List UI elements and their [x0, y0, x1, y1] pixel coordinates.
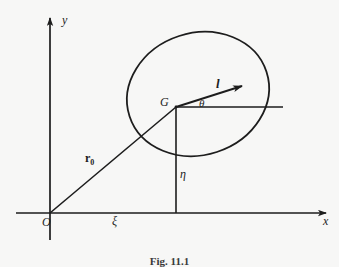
- y-axis-label: y: [62, 14, 67, 26]
- r0-subscript: 0: [90, 158, 94, 167]
- centroid-label: G: [160, 96, 169, 108]
- position-vector-r0: [50, 107, 176, 213]
- body-line-label: l: [216, 77, 220, 90]
- figure-caption: Fig. 11.1: [0, 255, 339, 267]
- body-line-l-vector: [176, 86, 242, 107]
- rigid-body-outline: [111, 14, 286, 175]
- centroid-point: [175, 106, 178, 109]
- x-axis-label: x: [323, 215, 328, 227]
- figure-container: y x O ξ η r0 G l θ Fig. 11.1: [0, 0, 339, 267]
- r0-vector-label: r0: [85, 152, 94, 167]
- origin-label: O: [42, 216, 51, 228]
- eta-label: η: [180, 168, 186, 180]
- theta-angle-label: θ: [199, 98, 204, 109]
- xi-label: ξ: [112, 215, 117, 227]
